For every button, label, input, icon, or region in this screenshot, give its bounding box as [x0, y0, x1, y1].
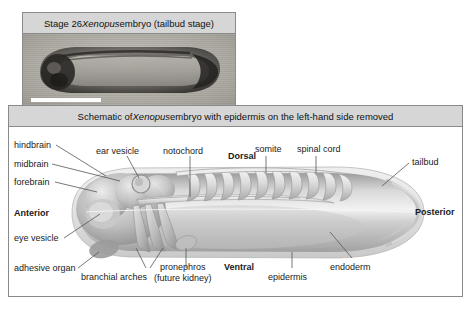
embryo-photo-shape: [32, 42, 224, 98]
label-epidermis: epidermis: [268, 272, 307, 283]
label-adhesive-organ: adhesive organ: [14, 263, 76, 274]
label-dorsal: Dorsal: [228, 151, 256, 162]
label-pronephros-line2: (future kidney): [154, 273, 212, 284]
label-hindbrain: hindbrain: [14, 140, 51, 151]
label-posterior: Posterior: [415, 207, 455, 218]
schematic-caption-suffix: embryo with epidermis on the left-hand s…: [170, 111, 393, 122]
figure-root: Stage 26 Xenopus embryo (tailbud stage): [0, 0, 474, 318]
label-branchial-arches: branchial arches: [81, 272, 147, 283]
photo-panel: Stage 26 Xenopus embryo (tailbud stage): [22, 12, 236, 107]
schematic-panel-caption: Schematic of Xenopus embryo with epiderm…: [9, 106, 462, 127]
label-notochord: notochord: [163, 146, 203, 157]
photo-caption-prefix: Stage 26: [44, 18, 82, 29]
label-spinal-cord: spinal cord: [297, 144, 341, 155]
label-ventral: Ventral: [224, 262, 254, 273]
embryo-micrograph: [23, 34, 235, 106]
schematic-caption-italic: Xenopus: [133, 111, 171, 122]
label-pronephros-line1: pronephros: [160, 262, 206, 273]
photo-caption-suffix: embryo (tailbud stage): [120, 18, 215, 29]
label-eye-vesicle: eye vesicle: [14, 233, 59, 244]
scale-bar: [31, 98, 101, 102]
label-midbrain: midbrain: [14, 159, 49, 170]
photo-panel-caption: Stage 26 Xenopus embryo (tailbud stage): [23, 13, 235, 34]
photo-caption-italic: Xenopus: [82, 18, 120, 29]
label-anterior: Anterior: [14, 208, 49, 219]
label-ear-vesicle: ear vesicle: [96, 146, 139, 157]
label-forebrain: forebrain: [14, 177, 50, 188]
label-tailbud: tailbud: [412, 157, 439, 168]
label-somite: somite: [255, 144, 282, 155]
schematic-caption-prefix: Schematic of: [78, 111, 133, 122]
label-endoderm: endoderm: [330, 262, 371, 273]
